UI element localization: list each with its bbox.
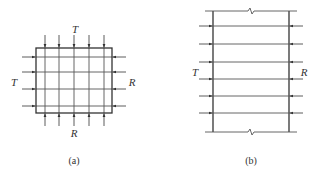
panel-a-label-right: R [128,76,136,88]
panel-a-label-bottom: R [70,127,78,139]
panel-a-label-left: T [11,76,18,88]
panel-b-bottom-break-line [205,129,297,135]
diagram-canvas: T T R R (a) T R (b) [0,0,315,180]
panel-a: T T R R (a) [11,23,136,167]
panel-a-label-top: T [72,23,79,35]
panel-b-label-left: T [192,66,199,78]
panel-b: T R (b) [192,8,308,167]
panel-b-arrows [199,26,303,113]
panel-a-grid [36,48,112,113]
panel-a-caption: (a) [68,155,79,167]
panel-b-label-right: R [300,66,308,78]
panel-b-frame [205,8,297,135]
panel-b-caption: (b) [245,155,257,167]
panel-b-top-break-line [205,8,297,14]
